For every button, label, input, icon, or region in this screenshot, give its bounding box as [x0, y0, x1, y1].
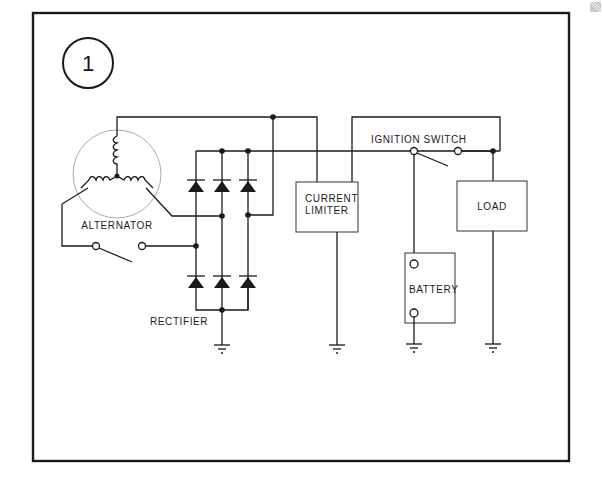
alternator-switch	[93, 243, 197, 263]
rectifier-label: RECTIFIER	[150, 316, 208, 327]
battery-label: BATTERY	[409, 284, 458, 295]
alternator-symbol: ALTERNATOR	[73, 118, 161, 231]
wire-to-current-limiter	[273, 117, 317, 182]
winding-right	[117, 176, 153, 188]
figure-frame	[33, 13, 569, 461]
diode-upper-3	[239, 180, 257, 192]
ground-rectifier	[214, 345, 230, 353]
diode-lower-2	[213, 276, 231, 288]
winding-top	[113, 118, 117, 176]
wire-phase-c	[248, 117, 273, 215]
ground-current-limiter	[329, 345, 345, 353]
diode-upper-2	[213, 180, 231, 192]
load: LOAD	[457, 151, 527, 352]
wire-alt-top	[117, 117, 273, 118]
diode-lower-3	[239, 276, 257, 288]
ground-battery	[406, 344, 422, 352]
current-limiter: CURRENT LIMITER	[296, 117, 500, 353]
wire-limiter-to-load	[352, 117, 500, 182]
alternator-label: ALTERNATOR	[81, 220, 153, 231]
figure-number-badge: 1	[63, 38, 113, 88]
diode-upper-1	[187, 180, 205, 192]
ground-load	[485, 344, 501, 352]
ignition-switch: IGNITION SWITCH	[371, 134, 496, 166]
battery: BATTERY	[405, 155, 458, 352]
current-limiter-label-1: CURRENT	[305, 193, 358, 204]
figure-number: 1	[82, 51, 94, 76]
wire-phase-a	[62, 188, 92, 246]
ignition-switch-label: IGNITION SWITCH	[371, 134, 467, 145]
current-limiter-label-2: LIMITER	[305, 205, 349, 216]
circuit-diagram: 1 ALTERNATOR	[0, 0, 602, 484]
diode-lower-1	[187, 276, 205, 288]
winding-left	[81, 176, 117, 188]
load-label: LOAD	[477, 201, 507, 212]
